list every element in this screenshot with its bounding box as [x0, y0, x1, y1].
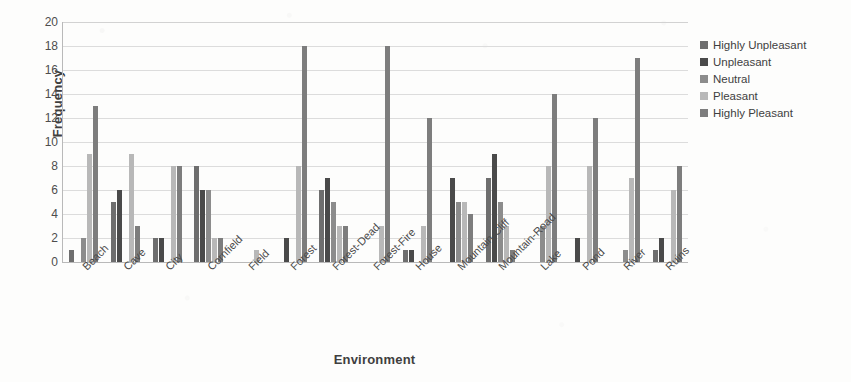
bar-group [646, 22, 688, 262]
legend-swatch-icon [700, 109, 708, 117]
bar [427, 118, 432, 262]
bar [403, 250, 408, 262]
bar [69, 250, 74, 262]
legend-swatch-icon [700, 41, 708, 49]
bar [296, 166, 301, 262]
bar-group [146, 22, 188, 262]
y-axis-tick-label: 12 [32, 111, 58, 125]
y-axis-tick-label: 20 [32, 15, 58, 29]
bar [659, 238, 664, 262]
bar [456, 202, 461, 262]
bar [319, 190, 324, 262]
bar [635, 58, 640, 262]
bar-group [105, 22, 147, 262]
bar [302, 46, 307, 262]
legend-label: Highly Pleasant [713, 107, 793, 119]
bar [177, 166, 182, 262]
x-axis-tick-labels: BeachCaveCityCornfieldFieldForestForest-… [62, 264, 687, 334]
bar [552, 94, 557, 262]
y-axis-tick-label: 14 [32, 87, 58, 101]
bar-group [188, 22, 230, 262]
y-axis-tick-label: 8 [32, 159, 58, 173]
bar [129, 154, 134, 262]
legend-item: Highly Unpleasant [700, 36, 848, 53]
legend-swatch-icon [700, 75, 708, 83]
bar [93, 106, 98, 262]
y-axis-tick-label: 16 [32, 63, 58, 77]
legend-item: Neutral [700, 70, 848, 87]
bar [87, 154, 92, 262]
y-axis-tick-label: 18 [32, 39, 58, 53]
bar [325, 178, 330, 262]
y-axis-tick-label: 4 [32, 207, 58, 221]
bar [385, 46, 390, 262]
bar-group [438, 22, 480, 262]
bar-group [605, 22, 647, 262]
legend-label: Pleasant [713, 90, 758, 102]
y-axis-tick-label: 2 [32, 231, 58, 245]
bar [153, 238, 158, 262]
bar [111, 202, 116, 262]
bar [206, 190, 211, 262]
bar [492, 154, 497, 262]
legend-label: Highly Unpleasant [713, 39, 806, 51]
bar [200, 190, 205, 262]
bar [629, 178, 634, 262]
y-axis-tick-label: 10 [32, 135, 58, 149]
bar [450, 178, 455, 262]
bar [284, 238, 289, 262]
bar [117, 190, 122, 262]
bar [653, 250, 658, 262]
legend-label: Unpleasant [713, 56, 771, 68]
y-axis-tick-labels: 02468101214161820 [30, 0, 58, 382]
legend-item: Highly Pleasant [700, 104, 848, 121]
legend-label: Neutral [713, 73, 750, 85]
bar [486, 178, 491, 262]
bar-group [63, 22, 105, 262]
y-axis-tick-label: 6 [32, 183, 58, 197]
bar [593, 118, 598, 262]
bar [159, 238, 164, 262]
bar-chart: Frequency 02468101214161820 BeachCaveCit… [0, 0, 851, 382]
bar-group [313, 22, 355, 262]
bar [331, 202, 336, 262]
x-axis-title: Environment [62, 352, 687, 367]
legend-swatch-icon [700, 58, 708, 66]
bar [575, 238, 580, 262]
bar-group [271, 22, 313, 262]
bar-group [230, 22, 272, 262]
legend-item: Pleasant [700, 87, 848, 104]
y-axis-tick-label: 0 [32, 255, 58, 269]
bar [194, 166, 199, 262]
bar [171, 166, 176, 262]
bar [587, 166, 592, 262]
bar-group [563, 22, 605, 262]
legend-swatch-icon [700, 92, 708, 100]
chart-legend: Highly UnpleasantUnpleasantNeutralPleasa… [700, 36, 848, 121]
bar [409, 250, 414, 262]
bar-group [396, 22, 438, 262]
legend-item: Unpleasant [700, 53, 848, 70]
